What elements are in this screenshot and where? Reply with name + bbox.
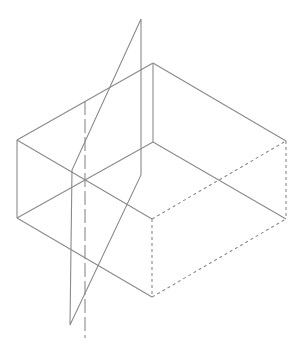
hidden-edge-bottom-front-to-bottom-right bbox=[152, 219, 286, 297]
edge-bottom-back-to-bottom-right bbox=[153, 142, 286, 219]
edge-top-back-to-top-right bbox=[153, 63, 286, 141]
cutting-plane bbox=[70, 19, 141, 325]
isometric-diagram bbox=[0, 0, 301, 344]
box-hidden-edges bbox=[152, 141, 286, 297]
